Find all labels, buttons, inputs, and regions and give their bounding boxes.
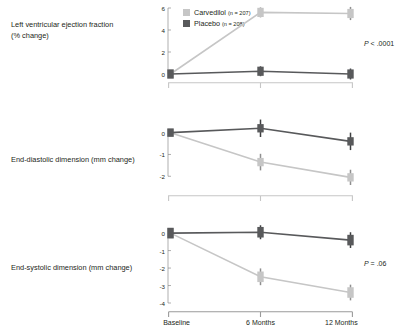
plot-svg-lvef xyxy=(168,8,353,74)
data-point-marker xyxy=(167,69,173,78)
y-tick-label: -2 xyxy=(159,173,165,180)
y-tick-label: -2 xyxy=(159,265,165,272)
plot-svg-end-systolic xyxy=(168,227,353,303)
x-axis-labels: Baseline6 Months12 Months xyxy=(168,319,353,325)
y-tick-label: -1 xyxy=(159,151,165,158)
pvalue-lvef-value: < .0001 xyxy=(369,40,395,47)
y-tick-label: 0 xyxy=(162,230,165,237)
pvalue-lvef: P < .0001 xyxy=(364,40,394,47)
plot-svg-end-diastolic xyxy=(168,125,353,185)
axis-rail-lvef xyxy=(168,82,353,88)
y-tick-label: 0 xyxy=(162,129,165,136)
data-point-marker xyxy=(257,227,263,238)
y-tick-label: 4 xyxy=(162,27,165,34)
panel-label-end-diastolic: End-diastolic dimension (mm change) xyxy=(11,155,151,166)
figure-container: Carvedilol (n = 207) Placebo (n = 208) L… xyxy=(0,0,419,325)
chart-panel-lvef: Left ventricular ejection fraction (% ch… xyxy=(0,0,419,110)
panel-label-end-systolic: End-systolic dimension (mm change) xyxy=(11,263,151,274)
data-point-marker xyxy=(167,128,173,136)
data-point-marker xyxy=(347,287,353,298)
data-point-marker xyxy=(347,235,353,246)
data-point-marker xyxy=(347,69,353,78)
axis-rail-end-systolic xyxy=(168,311,353,317)
y-tick-label: -1 xyxy=(159,247,165,254)
chart-panel-end-diastolic: End-diastolic dimension (mm change) 0-1-… xyxy=(0,110,419,215)
chart-panel-end-systolic: End-systolic dimension (mm change) 0-1-2… xyxy=(0,215,419,325)
y-tick-label: -4 xyxy=(159,300,165,307)
data-point-marker xyxy=(257,158,263,166)
data-point-marker xyxy=(257,272,263,283)
y-tick-label: 6 xyxy=(162,5,165,12)
data-point-marker xyxy=(347,173,353,181)
y-tick-label: -3 xyxy=(159,282,165,289)
y-tick-label: 0 xyxy=(162,71,165,78)
data-point-marker xyxy=(167,228,173,239)
data-point-marker xyxy=(257,67,263,76)
data-point-marker xyxy=(347,137,353,145)
panel-label-lvef: Left ventricular ejection fraction (% ch… xyxy=(11,20,151,41)
x-tick-label: 6 Months xyxy=(246,319,275,325)
series-line-carvedilol xyxy=(171,12,351,74)
data-point-marker xyxy=(347,9,353,18)
plot-area-end-diastolic: 0-1-2 xyxy=(168,125,353,185)
y-tick-label: 2 xyxy=(162,49,165,56)
axis-rail-end-diastolic xyxy=(168,195,353,201)
data-point-marker xyxy=(257,8,263,17)
plot-area-end-systolic: 0-1-2-3-4 xyxy=(168,227,353,303)
plot-area-lvef: 0246 xyxy=(168,8,353,74)
x-tick-label: Baseline xyxy=(163,319,190,325)
data-point-marker xyxy=(257,124,263,132)
x-tick-label: 12 Months xyxy=(325,319,358,325)
